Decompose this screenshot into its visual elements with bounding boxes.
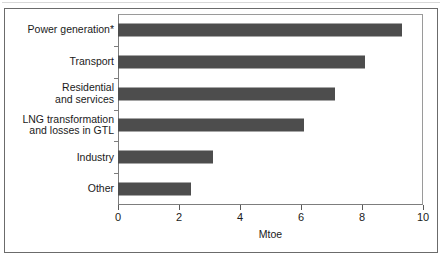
- y-axis-tick: [114, 141, 118, 142]
- x-axis-tick-label: 10: [403, 211, 442, 224]
- x-axis-tick-label: 8: [342, 211, 382, 224]
- x-axis-tick-label: 0: [98, 211, 138, 224]
- top-cut-rule: [2, 2, 440, 3]
- x-axis-tick: [301, 205, 302, 210]
- x-axis-tick-label: 2: [159, 211, 199, 224]
- bar[interactable]: [118, 119, 304, 132]
- x-axis-tick: [118, 205, 119, 210]
- chart-figure: Power generation*TransportResidential an…: [0, 0, 442, 257]
- x-axis-title: Mtoe: [118, 228, 423, 240]
- category-axis-labels: Power generation*TransportResidential an…: [4, 14, 114, 205]
- bars-container: [118, 14, 423, 205]
- bar-row: [118, 173, 423, 205]
- x-axis-tick: [240, 205, 241, 210]
- y-axis-tick: [114, 78, 118, 79]
- x-axis-tick: [179, 205, 180, 210]
- bar-row: [118, 110, 423, 142]
- category-label: Residential and services: [4, 82, 114, 105]
- bar[interactable]: [118, 183, 191, 196]
- x-axis-tick-label: 4: [220, 211, 260, 224]
- category-label: Other: [4, 183, 114, 195]
- category-label: Power generation*: [4, 24, 114, 36]
- x-axis-tick: [362, 205, 363, 210]
- y-axis-tick: [114, 173, 118, 174]
- x-axis-tick-label: 6: [281, 211, 321, 224]
- category-label: Industry: [4, 152, 114, 164]
- bar[interactable]: [118, 87, 335, 100]
- bar-row: [118, 46, 423, 78]
- bar[interactable]: [118, 55, 365, 68]
- category-label: LNG transformation and losses in GTL: [4, 114, 114, 137]
- bar-row: [118, 14, 423, 46]
- x-axis-tick: [423, 205, 424, 210]
- y-axis-tick: [114, 110, 118, 111]
- bar[interactable]: [118, 23, 402, 36]
- bar[interactable]: [118, 151, 213, 164]
- category-label: Transport: [4, 56, 114, 68]
- bar-row: [118, 78, 423, 110]
- bar-row: [118, 141, 423, 173]
- y-axis-tick: [114, 46, 118, 47]
